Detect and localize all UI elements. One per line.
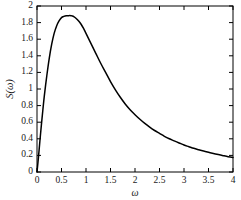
x-tick-label: 4 — [231, 176, 236, 186]
x-tick-label: 3 — [182, 176, 187, 186]
y-tick-label: 1.8 — [0, 18, 33, 28]
x-tick-label: 2.5 — [154, 176, 166, 186]
y-tick-label: 2 — [0, 1, 33, 11]
x-tick-label: 2 — [133, 176, 138, 186]
x-tick-label: 1 — [84, 176, 89, 186]
y-tick-label: 0.8 — [0, 101, 33, 111]
y-axis-title: S(ω) — [5, 79, 16, 99]
plot-border — [37, 6, 233, 172]
y-tick-label: 0.6 — [0, 117, 33, 127]
x-tick-label: 0 — [35, 176, 40, 186]
spectral-density-figure: 00.20.40.60.811.21.41.61.82 00.511.522.5… — [0, 0, 241, 200]
plot-canvas — [0, 0, 241, 200]
x-tick-label: 1.5 — [105, 176, 117, 186]
y-tick-label: 0.2 — [0, 151, 33, 161]
y-tick-label: 0 — [0, 167, 33, 177]
x-axis-title: ω — [131, 188, 138, 198]
plot-frame — [37, 6, 233, 172]
y-tick-label: 1.6 — [0, 34, 33, 44]
y-tick-label: 1.2 — [0, 68, 33, 78]
y-tick-label: 0.4 — [0, 134, 33, 144]
x-tick-label: 0.5 — [56, 176, 68, 186]
x-tick-label: 3.5 — [203, 176, 215, 186]
y-tick-label: 1.4 — [0, 51, 33, 61]
